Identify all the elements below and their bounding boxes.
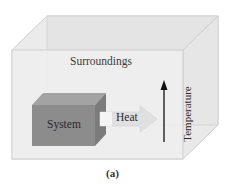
- system-label: System: [47, 118, 81, 130]
- heat-label: Heat: [116, 111, 138, 123]
- temperature-label: Temperature: [181, 79, 193, 149]
- energy-diagram: Surroundings System Heat Temperature (a): [0, 0, 232, 190]
- diagram-graphic: [0, 0, 232, 190]
- surroundings-label: Surroundings: [70, 55, 132, 67]
- figure-caption: (a): [106, 167, 119, 179]
